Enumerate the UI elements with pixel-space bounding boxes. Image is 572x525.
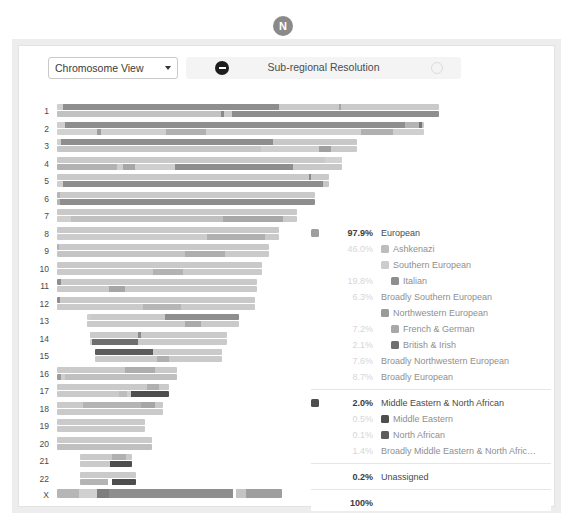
haplotype-bar[interactable] <box>57 391 169 397</box>
legend-row[interactable]: Northwestern European <box>311 305 551 321</box>
legend-label: French & German <box>403 321 475 337</box>
ancestry-segment <box>61 139 273 145</box>
haplotype-bar[interactable] <box>57 227 279 233</box>
haplotype-bar[interactable] <box>57 426 145 432</box>
haplotype-bar[interactable] <box>90 332 227 338</box>
legend-row[interactable]: 100% <box>311 495 551 511</box>
legend-row[interactable]: 1.4%Broadly Middle Eastern & North Afric… <box>311 443 551 459</box>
ancestry-segment <box>97 489 109 498</box>
haplotype-bar[interactable] <box>57 104 439 110</box>
haplotype-bar[interactable] <box>80 472 136 478</box>
haplotype-bar[interactable] <box>57 279 257 285</box>
haplotype-bar[interactable] <box>95 356 222 362</box>
haplotype-bar[interactable] <box>57 489 282 498</box>
ancestry-segment <box>57 304 143 310</box>
ancestry-segment <box>65 122 405 128</box>
legend-swatch <box>391 277 399 285</box>
haplotype-bar[interactable] <box>57 209 297 215</box>
haplotype-bar[interactable] <box>57 262 262 268</box>
haplotype-bar[interactable] <box>57 174 329 180</box>
ancestry-segment <box>422 122 424 128</box>
ancestry-segment <box>393 129 424 135</box>
haplotype-bar[interactable] <box>57 437 152 443</box>
haplotype-bar[interactable] <box>57 419 145 425</box>
notification-badge[interactable]: N <box>273 16 293 36</box>
ancestry-segment <box>157 356 169 362</box>
legend-percent: 7.2% <box>325 321 373 337</box>
legend-swatch <box>381 415 389 423</box>
haplotype-bar[interactable] <box>57 146 357 152</box>
chromosome-label-9: 9 <box>19 246 49 256</box>
haplotype-bar[interactable] <box>57 384 169 390</box>
haplotype-bar[interactable] <box>57 286 257 292</box>
legend-row[interactable]: 7.6%Broadly Northwestern European <box>311 353 551 369</box>
haplotype-bar[interactable] <box>57 157 342 163</box>
chromosome-label-7: 7 <box>19 211 49 221</box>
haplotype-bar[interactable] <box>57 192 315 198</box>
ancestry-card: Chromosome View Sub-regional Resolution … <box>18 45 555 507</box>
haplotype-bar[interactable] <box>57 216 297 222</box>
haplotype-bar[interactable] <box>80 461 132 467</box>
haplotype-bar[interactable] <box>57 367 177 373</box>
ancestry-segment <box>125 367 155 373</box>
haplotype-bar[interactable] <box>57 409 163 415</box>
haplotype-bar[interactable] <box>80 454 132 460</box>
ancestry-segment <box>57 234 207 240</box>
legend-row[interactable]: Southern European <box>311 257 551 273</box>
ancestry-segment <box>141 402 155 408</box>
ancestry-segment <box>155 402 163 408</box>
haplotype-bar[interactable] <box>57 269 262 275</box>
ancestry-segment <box>57 367 125 373</box>
haplotype-bar[interactable] <box>57 111 439 117</box>
haplotype-bar[interactable] <box>57 444 152 450</box>
ancestry-segment <box>185 321 201 327</box>
haplotype-bar[interactable] <box>57 374 177 380</box>
ancestry-segment <box>185 251 225 257</box>
haplotype-bar[interactable] <box>87 314 239 320</box>
view-select[interactable]: Chromosome View <box>48 57 178 79</box>
legend-row[interactable]: 0.5%Middle Eastern <box>311 411 551 427</box>
haplotype-bar[interactable] <box>87 321 239 327</box>
ancestry-segment <box>261 146 319 152</box>
legend-row[interactable]: 2.1%British & Irish <box>311 337 551 353</box>
resolution-slider[interactable]: Sub-regional Resolution <box>186 57 461 79</box>
ancestry-segment <box>153 269 183 275</box>
ancestry-legend: 97.9%European46.0%AshkenaziSouthern Euro… <box>311 223 551 511</box>
legend-row[interactable]: 6.3%Broadly Southern European <box>311 289 551 305</box>
haplotype-bar[interactable] <box>95 349 222 355</box>
plus-circle-icon[interactable] <box>431 62 443 74</box>
legend-row[interactable]: 46.0%Ashkenazi <box>311 241 551 257</box>
chromosome-label-16: 16 <box>19 369 49 379</box>
haplotype-bar[interactable] <box>90 339 227 345</box>
legend-row[interactable]: 7.2%French & German <box>311 321 551 337</box>
haplotype-bar[interactable] <box>57 251 269 257</box>
haplotype-bar[interactable] <box>57 181 329 187</box>
ancestry-segment <box>112 454 126 460</box>
legend-row[interactable]: 97.9%European <box>311 225 551 241</box>
ancestry-segment <box>279 104 339 110</box>
haplotype-bar[interactable] <box>80 479 136 485</box>
ancestry-segment <box>101 129 166 135</box>
view-select-value: Chromosome View <box>55 62 165 74</box>
legend-divider <box>311 489 551 490</box>
legend-row[interactable]: 8.7%Broadly European <box>311 369 551 385</box>
haplotype-bar[interactable] <box>57 304 255 310</box>
haplotype-bar[interactable] <box>57 402 163 408</box>
legend-row[interactable]: 0.1%North African <box>311 427 551 443</box>
haplotype-bar[interactable] <box>57 164 342 170</box>
ancestry-segment <box>169 356 222 362</box>
haplotype-bar[interactable] <box>57 139 357 145</box>
haplotype-bar[interactable] <box>57 129 424 135</box>
haplotype-bar[interactable] <box>57 199 315 205</box>
legend-percent: 0.5% <box>325 411 373 427</box>
legend-row[interactable]: 0.2%Unassigned <box>311 469 551 485</box>
ancestry-segment <box>57 402 83 408</box>
chromosome-view-page: N Chromosome View Sub-regional Resolutio… <box>0 0 572 525</box>
ancestry-segment <box>293 164 342 170</box>
haplotype-bar[interactable] <box>57 234 279 240</box>
legend-row[interactable]: 2.0%Middle Eastern & North African <box>311 395 551 411</box>
haplotype-bar[interactable] <box>57 244 269 250</box>
haplotype-bar[interactable] <box>57 122 424 128</box>
haplotype-bar[interactable] <box>57 297 255 303</box>
legend-row[interactable]: 19.8%Italian <box>311 273 551 289</box>
